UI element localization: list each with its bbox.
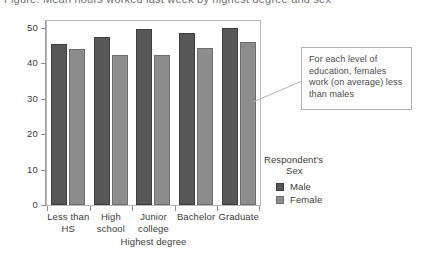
x-axis-label-line: college	[124, 223, 183, 235]
y-axis-ticks: 01020304050	[0, 0, 46, 206]
y-tick-label: 0	[33, 199, 38, 210]
y-tick: 20	[0, 134, 46, 135]
legend-title-line2: Sex	[264, 165, 369, 176]
bar-male	[51, 44, 67, 205]
annotation-callout: For each level of education, females wor…	[301, 47, 412, 110]
y-tick: 50	[0, 28, 46, 29]
bar-group	[90, 21, 133, 205]
y-tick: 40	[0, 63, 46, 64]
bar-male	[94, 37, 110, 205]
bar-group	[132, 21, 175, 205]
y-tick: 10	[0, 170, 46, 171]
annotation-text: For each level of education, females wor…	[309, 54, 407, 100]
bar-female	[197, 48, 213, 205]
legend-title-line1: Respondent's	[264, 154, 323, 165]
legend-swatch-male	[276, 183, 284, 191]
y-tick-label: 30	[27, 93, 38, 104]
clipped-title-text: Figure: Mean hours worked last week by h…	[4, 0, 331, 5]
bar-male	[179, 33, 195, 205]
x-axis-label: Graduate	[209, 211, 268, 223]
bar-female	[154, 55, 170, 205]
legend-item-label: Male	[290, 181, 311, 192]
legend-items: MaleFemale	[264, 180, 369, 206]
bar-group	[217, 21, 260, 205]
clipped-title-strip: Figure: Mean hours worked last week by h…	[0, 0, 425, 9]
x-axis-label-line: Graduate	[209, 211, 268, 223]
legend-item[interactable]: Male	[276, 180, 369, 193]
bar-series-container	[47, 21, 260, 205]
bar-group	[175, 21, 218, 205]
legend-swatch-female	[276, 196, 284, 204]
y-tick-label: 10	[27, 164, 38, 175]
y-tick-label: 20	[27, 128, 38, 139]
legend-item[interactable]: Female	[276, 193, 369, 206]
bar-group	[47, 21, 90, 205]
bar-male	[136, 29, 152, 205]
bar-male	[222, 28, 238, 205]
y-tick: 30	[0, 99, 46, 100]
legend: Respondent's Sex MaleFemale	[264, 154, 369, 206]
chart-figure: Figure: Mean hours worked last week by h…	[0, 0, 425, 256]
legend-item-label: Female	[290, 194, 322, 205]
bar-female	[240, 42, 256, 205]
bar-female	[69, 49, 85, 205]
y-tick-label: 50	[27, 22, 38, 33]
legend-title: Respondent's Sex	[264, 154, 369, 176]
y-tick: 0	[0, 205, 46, 206]
x-axis-title: Highest degree	[46, 236, 261, 247]
bar-female	[112, 55, 128, 205]
y-tick-label: 40	[27, 57, 38, 68]
